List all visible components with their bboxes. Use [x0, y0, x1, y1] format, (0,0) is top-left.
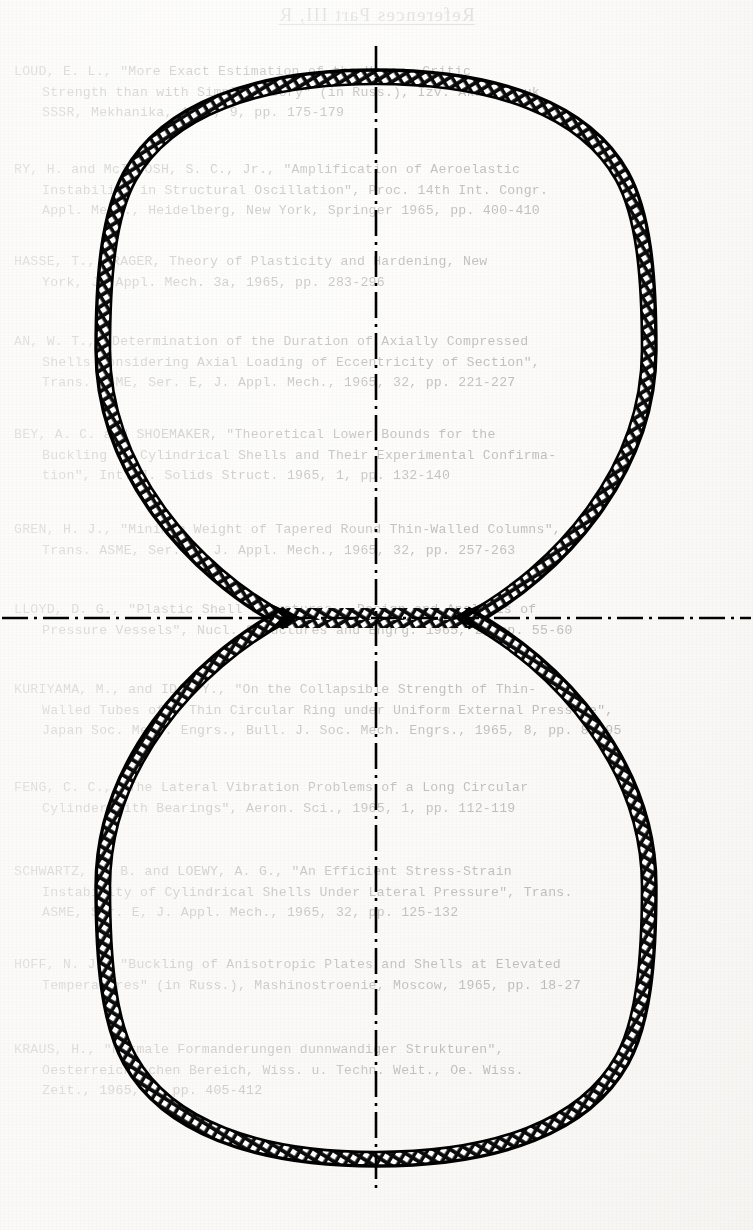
upper-lobe-outer-contour-left	[96, 70, 376, 628]
lower-lobe-inner-contour-left	[110, 620, 376, 1152]
scanned-page: References Part III, R LOUD, E. L., "Mor…	[0, 0, 753, 1230]
upper-lobe-inner-contour-left	[110, 84, 376, 616]
lower-lobe-inner-contour	[376, 620, 642, 1152]
lower-lobe-outer-contour-left	[96, 608, 376, 1166]
technical-drawing	[0, 0, 753, 1230]
lower-lobe-outer-contour	[376, 608, 656, 1166]
upper-lobe-inner-contour	[376, 84, 642, 616]
upper-lobe-outer-contour	[376, 70, 656, 628]
